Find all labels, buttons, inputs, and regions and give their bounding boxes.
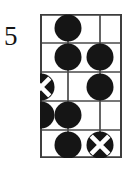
chord-markers (40, 15, 114, 159)
fretboard-svg (40, 14, 122, 158)
fret-position-label: 5 (4, 20, 34, 52)
marker-f2-s2 (55, 44, 82, 71)
marker-f4-s1 (40, 102, 55, 129)
chord-diagram: 5 (0, 0, 140, 169)
fretboard-grid (40, 14, 122, 158)
marker-f3-s3 (87, 74, 114, 101)
marker-f1-s2 (55, 15, 82, 42)
marker-f3-s1 (40, 74, 55, 101)
marker-f5-s2 (55, 132, 82, 159)
marker-f4-s2 (55, 102, 82, 129)
marker-f5-s3 (87, 132, 114, 159)
marker-f2-s3 (87, 44, 114, 71)
